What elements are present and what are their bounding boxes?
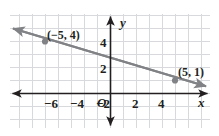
x-tick-label-4: 4	[158, 97, 165, 110]
y-tick-label-2: 2	[100, 62, 107, 75]
coordinate-plane-figure: y x O −6 −4 −2 2 4 2 4 (−5, 4) (5, 1)	[0, 0, 219, 136]
x-tick-label-neg6: −6	[44, 97, 58, 110]
x-tick-label-neg4: −4	[70, 97, 84, 110]
x-tick-label-neg2: −2	[96, 97, 110, 110]
y-axis-label: y	[120, 16, 126, 29]
point-label-neg5-4: (−5, 4)	[47, 29, 80, 41]
point-label-5-1: (5, 1)	[178, 66, 204, 78]
x-axis-label: x	[198, 96, 205, 109]
y-tick-label-4: 4	[100, 36, 107, 49]
clipped-heading-text	[46, 0, 116, 4]
x-tick-label-2: 2	[132, 97, 139, 110]
